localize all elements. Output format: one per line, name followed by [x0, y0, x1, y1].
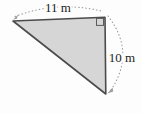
right-side-label: 10 m	[109, 50, 135, 65]
geometry-diagram: 11 m 10 m	[0, 0, 142, 113]
right-arc-arrowhead	[107, 88, 113, 94]
top-arc-arrowhead	[13, 15, 18, 20]
triangle-shape	[13, 17, 106, 94]
triangle-figure: 11 m 10 m	[0, 0, 142, 113]
top-side-label: 11 m	[45, 0, 71, 15]
